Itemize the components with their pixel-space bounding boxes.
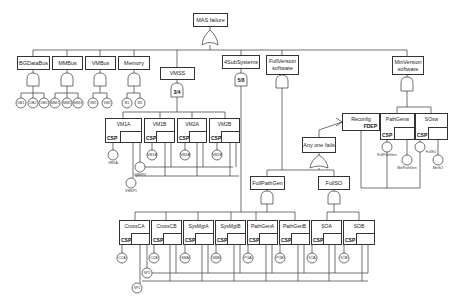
spare-label: CrossCA xyxy=(120,223,149,229)
event-fullpathgen[interactable]: FullPathGen xyxy=(250,176,285,190)
spare-gate-soa[interactable]: SOACSP xyxy=(311,220,342,245)
event-vmss[interactable]: VMSS xyxy=(160,67,195,80)
spare-gate-vm1b[interactable]: VM1BCSP xyxy=(144,118,175,143)
basic-event-ccb: CCB xyxy=(149,256,159,260)
csp-label: CSP xyxy=(146,135,156,141)
csp-label: CSP xyxy=(121,237,131,243)
basic-event-db1: DB1 xyxy=(16,101,26,105)
basic-event-sp1: SP1 xyxy=(132,286,142,290)
kofn-label-vmss: 3/4 xyxy=(171,89,183,95)
csp-label: CSP xyxy=(107,135,117,141)
spare-label: PathGenB xyxy=(280,223,309,229)
csp-label: CSP xyxy=(313,237,323,243)
basic-event-vm2a: VM2A xyxy=(176,153,194,157)
basic-event-mm2: MM2 xyxy=(62,101,72,105)
basic-event-m2: M2 xyxy=(135,101,145,105)
basic-event-soa: SOA xyxy=(307,256,317,260)
spare-label: SOA xyxy=(312,223,341,229)
event-memory[interactable]: Memory xyxy=(118,56,150,70)
event-minversion-software[interactable]: MinVersion software xyxy=(392,56,424,75)
event-any-one-fails[interactable]: Any one fails xyxy=(302,137,336,153)
spare-label: VM1B xyxy=(145,121,174,127)
spare-gate-sysmgtb[interactable]: SysMgtBCSP xyxy=(215,220,246,245)
basic-event-vm1a: VM1A xyxy=(104,161,122,165)
basic-event-vmsp2: VMSP2 xyxy=(131,173,149,177)
fdep-type: FDEP xyxy=(364,123,377,129)
basic-event-mm3: MM3 xyxy=(73,101,83,105)
spare-gate-vm2a[interactable]: VM2ACSP xyxy=(177,118,207,143)
spare-gate-sysmgta[interactable]: SysMgtACSP xyxy=(183,220,214,245)
csp-label: CSP xyxy=(382,132,392,138)
top-event-mas-failure[interactable]: MAS failure xyxy=(193,13,228,27)
spare-label: CrossCB xyxy=(152,223,181,229)
basic-event-cca: CCA xyxy=(117,256,127,260)
basic-event-vm2b: VM2B xyxy=(208,153,226,157)
csp-label: CSP xyxy=(281,237,291,243)
basic-event-fullso: FullSO xyxy=(424,150,438,154)
kofn-label-subsystems: 5/8 xyxy=(235,77,247,83)
basic-event-fullpathgen: FullPathGen xyxy=(377,153,397,157)
basic-event-vmsp1: VMSP1 xyxy=(122,189,140,193)
basic-event-m1: M1 xyxy=(122,101,132,105)
event-mmbus[interactable]: MMBus xyxy=(52,56,83,70)
fdep-gate-reconfig[interactable]: ReconfigFDEP xyxy=(342,113,380,131)
basic-event-vm1: VM1 xyxy=(88,101,98,105)
basic-event-sp2: SP2 xyxy=(142,271,152,275)
spare-gate-crosscb[interactable]: CrossCBCSP xyxy=(151,220,182,245)
event-fullso[interactable]: FullSO xyxy=(318,176,350,190)
basic-event-vm1b: VM1B xyxy=(143,153,161,157)
csp-label: CSP xyxy=(185,237,195,243)
spare-gate-pathgena[interactable]: PathGenACSP xyxy=(247,220,278,245)
spare-label: SOsw xyxy=(416,116,447,122)
csp-label: CSP xyxy=(249,237,259,243)
basic-event-pgb: PGB xyxy=(275,256,285,260)
event-vmbus[interactable]: VMBus xyxy=(85,56,116,70)
and-gates-l1 xyxy=(27,73,140,86)
spare-gate-sosw[interactable]: SOswCSP xyxy=(415,113,448,140)
csp-label: CSP xyxy=(211,135,221,141)
spare-label: VM2B xyxy=(210,121,239,127)
spare-gate-pathgenw[interactable]: PathGenwCSP xyxy=(380,113,415,140)
event-fullversion-software[interactable]: FullVersion software xyxy=(266,55,299,75)
csp-label: CSP xyxy=(153,237,163,243)
event-4subsystems[interactable]: 4SubSystems xyxy=(222,55,260,69)
spare-gate-pathgenb[interactable]: PathGenBCSP xyxy=(279,220,310,245)
spare-label: SysMgtB xyxy=(216,223,245,229)
spare-gate-sob[interactable]: SOBCSP xyxy=(343,220,375,245)
spare-label: VM1A xyxy=(106,121,141,127)
basic-event-smb: SMB xyxy=(211,256,221,260)
spare-gate-crossca[interactable]: CrossCACSP xyxy=(119,220,150,245)
fdep-label: Reconfig xyxy=(343,116,379,122)
csp-label: CSP xyxy=(345,237,355,243)
spare-label: SOB xyxy=(344,223,374,229)
spare-label: PathGenw xyxy=(381,116,414,122)
basic-event-minso: MinSO xyxy=(431,166,445,170)
spare-gate-vm1a[interactable]: VM1ACSP xyxy=(105,118,142,143)
basic-event-db3: DB3 xyxy=(39,101,49,105)
basic-event-minpathgen: MinPathGen xyxy=(397,166,417,170)
or-gate-top xyxy=(202,30,218,45)
csp-label: CSP xyxy=(179,135,189,141)
spare-label: PathGenA xyxy=(248,223,277,229)
basic-event-mm1: MM1 xyxy=(50,101,60,105)
basic-event-db2: DB2 xyxy=(28,101,38,105)
basic-event-vm2: VM2 xyxy=(102,101,112,105)
spare-label: SysMgtA xyxy=(184,223,213,229)
spare-gate-vm2b[interactable]: VM2BCSP xyxy=(209,118,240,143)
spare-label: VM2A xyxy=(178,121,206,127)
basic-event-pga: PGA xyxy=(243,256,253,260)
event-bgdatabus[interactable]: BGDataBus xyxy=(17,56,50,70)
csp-label: CSP xyxy=(217,237,227,243)
basic-event-sob: SOB xyxy=(339,256,349,260)
basic-event-sma: SMA xyxy=(180,256,190,260)
csp-label: CSP xyxy=(417,132,427,138)
